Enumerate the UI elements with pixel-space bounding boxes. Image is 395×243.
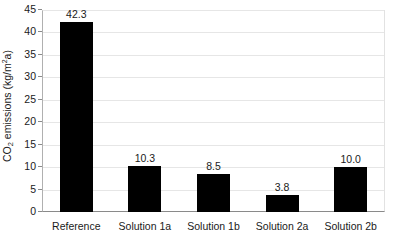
bar[interactable] [197,174,230,212]
bar-value-label: 42.3 [38,8,115,20]
bars-layer: 42.310.38.53.810.0 [42,10,385,212]
x-category-label: Reference [42,220,111,233]
y-tick-label: 10 [10,161,36,171]
bar-value-label: 8.5 [175,160,252,172]
bar-group[interactable]: 10.0 [334,10,367,212]
y-axis-title-superscript: 2 [1,59,8,63]
y-tick-label: 35 [10,49,36,59]
bar-group[interactable]: 42.3 [60,10,93,212]
y-tick-label: 20 [10,116,36,126]
bar-value-label: 3.8 [244,181,321,193]
y-tick-label: 25 [10,94,36,104]
bar-group[interactable]: 10.3 [128,10,161,212]
y-tick-label: 40 [10,26,36,36]
x-category-label: Solution 2b [316,220,385,233]
bar[interactable] [266,195,299,212]
y-tick-label: 5 [10,184,36,194]
y-tick-label: 0 [10,206,36,216]
y-tick-label: 15 [10,139,36,149]
bar-value-label: 10.0 [312,153,389,165]
x-category-label: Solution 1a [111,220,180,233]
bar-group[interactable]: 8.5 [197,10,230,212]
x-category-label: Solution 1b [179,220,248,233]
bar[interactable] [334,167,367,212]
bar[interactable] [128,166,161,212]
bar[interactable] [60,22,93,212]
y-tick-label: 45 [10,4,36,14]
bar-value-label: 10.3 [106,152,183,164]
bar-chart: CO2 emissions (kg/m2a) 45403530252015105… [0,0,395,243]
y-tick-label: 30 [10,71,36,81]
bar-group[interactable]: 3.8 [266,10,299,212]
x-category-label: Solution 2a [248,220,317,233]
